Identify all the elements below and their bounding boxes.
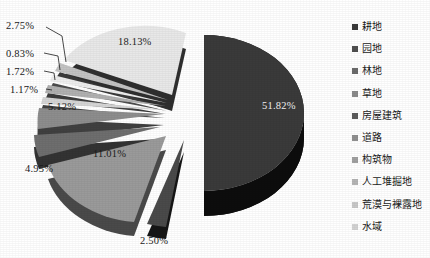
legend-label: 荒漠与裸露地: [362, 200, 422, 210]
legend-item-耕地[interactable]: 耕地: [352, 16, 430, 38]
legend-label: 人工堆掘地: [362, 177, 412, 187]
legend-label: 草地: [362, 89, 382, 99]
slice-label-51-82: 51.82%: [262, 100, 296, 111]
legend-swatch-icon: [352, 91, 358, 97]
legend-label: 水域: [362, 222, 382, 232]
legend-swatch-icon: [352, 202, 358, 208]
legend-item-水域[interactable]: 水域: [352, 216, 430, 238]
slice-label-2-50: 2.50%: [140, 235, 168, 246]
legend-swatch-icon: [352, 157, 358, 163]
legend-item-园地[interactable]: 园地: [352, 38, 430, 60]
legend-label: 耕地: [362, 22, 382, 32]
legend-label: 园地: [362, 44, 382, 54]
legend-swatch-icon: [352, 46, 358, 52]
slice-label-0-83: 0.83%: [6, 48, 34, 59]
legend-label: 构筑物: [362, 155, 392, 165]
pie-slice-耕地: [204, 35, 304, 216]
legend-label: 房屋建筑: [362, 111, 402, 121]
slice-label-18-13: 18.13%: [118, 36, 152, 47]
legend-item-构筑物[interactable]: 构筑物: [352, 149, 430, 171]
legend-swatch-icon: [352, 24, 358, 30]
legend-item-林地[interactable]: 林地: [352, 60, 430, 82]
slice-label-5-12: 5.12%: [48, 101, 76, 112]
legend-item-荒漠与裸露地[interactable]: 荒漠与裸露地: [352, 194, 430, 216]
slice-label-2-75: 2.75%: [6, 20, 34, 31]
slice-label-11-01: 11.01%: [93, 148, 126, 159]
pie-slices-group: [34, 26, 304, 239]
chart-legend: 耕地 园地 林地 草地 房屋建筑 道路 构筑物 人工堆掘地: [352, 16, 430, 238]
legend-swatch-icon: [352, 224, 358, 230]
legend-label: 道路: [362, 133, 382, 143]
legend-item-人工堆掘地[interactable]: 人工堆掘地: [352, 171, 430, 193]
legend-label: 林地: [362, 66, 382, 76]
legend-swatch-icon: [352, 68, 358, 74]
slice-label-4-95: 4.95%: [25, 163, 53, 174]
slice-label-1-17: 1.17%: [10, 84, 38, 95]
legend-item-草地[interactable]: 草地: [352, 83, 430, 105]
legend-item-道路[interactable]: 道路: [352, 127, 430, 149]
legend-swatch-icon: [352, 135, 358, 141]
legend-swatch-icon: [352, 179, 358, 185]
legend-swatch-icon: [352, 113, 358, 119]
slice-label-1-72: 1.72%: [6, 66, 34, 77]
legend-item-房屋建筑[interactable]: 房屋建筑: [352, 105, 430, 127]
chart-figure: 2.75% 0.83% 1.72% 1.17% 5.12% 4.95% 11.0…: [0, 0, 430, 258]
